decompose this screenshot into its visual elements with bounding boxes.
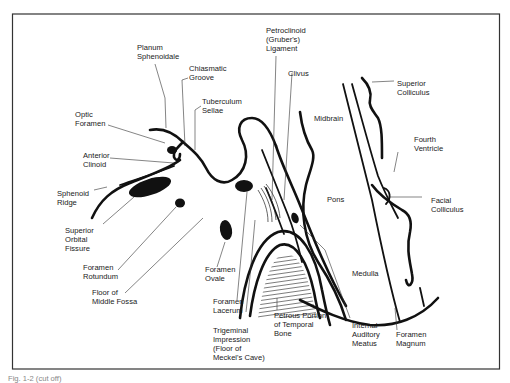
- spinal-cord-line: [420, 288, 424, 306]
- svg-text:Meckel's Cave): Meckel's Cave): [213, 353, 265, 362]
- svg-text:Foramen: Foramen: [75, 119, 105, 128]
- label-superior-orbital-fissure: Superior Orbital Fissure: [65, 226, 94, 253]
- svg-text:Pons: Pons: [327, 195, 345, 204]
- label-midbrain: Midbrain: [314, 114, 343, 123]
- svg-text:Superior: Superior: [397, 79, 426, 88]
- label-superior-colliculus: Superior Colliculus: [397, 79, 430, 97]
- label-medulla: Medulla: [352, 269, 379, 278]
- svg-text:Foramen: Foramen: [83, 263, 113, 272]
- svg-text:Floor of: Floor of: [92, 288, 119, 297]
- svg-text:Foramen: Foramen: [213, 297, 243, 306]
- svg-text:Bone: Bone: [274, 329, 292, 338]
- label-internal-auditory-meatus: Internal Auditory Meatus: [352, 321, 380, 348]
- svg-text:Trigeminal: Trigeminal: [213, 326, 248, 335]
- svg-text:Petrous Portion: Petrous Portion: [274, 311, 326, 320]
- label-clivus: Clivus: [288, 69, 309, 78]
- svg-text:Orbital: Orbital: [65, 235, 88, 244]
- svg-text:Optic: Optic: [75, 110, 93, 119]
- svg-text:Groove: Groove: [189, 73, 214, 82]
- svg-text:Sellae: Sellae: [202, 106, 223, 115]
- svg-text:(Gruber's): (Gruber's): [266, 35, 300, 44]
- label-pons: Pons: [327, 195, 345, 204]
- svg-text:Ridge: Ridge: [57, 198, 77, 207]
- foramen-rotundum-blob: [175, 199, 185, 208]
- svg-text:Anterior: Anterior: [83, 151, 110, 160]
- label-anterior-clinoid: Anterior Clinoid: [83, 151, 110, 169]
- label-foramen-magnum: Foramen Magnum: [396, 330, 426, 348]
- svg-text:Ligament: Ligament: [266, 44, 298, 53]
- svg-text:Superior: Superior: [65, 226, 94, 235]
- svg-text:Sphenoid: Sphenoid: [57, 189, 89, 198]
- svg-text:Tuberculum: Tuberculum: [202, 97, 242, 106]
- svg-text:Sphenoidale: Sphenoidale: [137, 52, 179, 61]
- label-petrous-portion: Petrous Portion of Temporal Bone: [274, 311, 326, 338]
- svg-text:Fissure: Fissure: [65, 244, 90, 253]
- svg-text:Clinoid: Clinoid: [83, 160, 106, 169]
- svg-text:Clivus: Clivus: [288, 69, 309, 78]
- svg-text:Foramen: Foramen: [205, 265, 235, 274]
- skull-base-diagram: Planum Sphenoidale Chiasmatic Groove Tub…: [0, 0, 510, 383]
- svg-text:Magnum: Magnum: [396, 339, 426, 348]
- svg-text:Meatus: Meatus: [352, 339, 377, 348]
- svg-text:of Temporal: of Temporal: [274, 320, 314, 329]
- foramen-ovale-blob: [218, 219, 233, 241]
- svg-text:(Floor of: (Floor of: [213, 344, 242, 353]
- svg-text:Petroclinoid: Petroclinoid: [266, 26, 306, 35]
- label-fourth-ventricle: Fourth Ventricle: [414, 135, 443, 153]
- tectum-outline: [362, 78, 382, 158]
- label-sphenoid-ridge: Sphenoid Ridge: [57, 189, 89, 207]
- svg-text:Impression: Impression: [213, 335, 250, 344]
- label-foramen-rotundum: Foramen Rotundum: [83, 263, 118, 281]
- svg-text:Internal: Internal: [352, 321, 378, 330]
- svg-text:Ovale: Ovale: [205, 274, 225, 283]
- label-optic-foramen: Optic Foramen: [75, 110, 105, 128]
- svg-text:Foramen: Foramen: [396, 330, 426, 339]
- svg-text:Planum: Planum: [137, 43, 163, 52]
- svg-text:Colliculus: Colliculus: [431, 205, 464, 214]
- svg-text:Auditory: Auditory: [352, 330, 380, 339]
- label-floor-middle-fossa: Floor of Middle Fossa: [92, 288, 138, 306]
- label-facial-colliculus: Facial Colliculus: [431, 196, 464, 214]
- svg-text:Medulla: Medulla: [352, 269, 379, 278]
- svg-text:Colliculus: Colliculus: [397, 88, 430, 97]
- label-trigeminal-impression: Trigeminal Impression (Floor of Meckel's…: [213, 326, 265, 362]
- svg-text:Lacerum: Lacerum: [213, 306, 243, 315]
- label-petroclinoid-ligament: Petroclinoid (Gruber's) Ligament: [266, 26, 306, 53]
- label-foramen-ovale: Foramen Ovale: [205, 265, 235, 283]
- label-tuberculum-sellae: Tuberculum Sellae: [202, 97, 242, 115]
- svg-text:Fourth: Fourth: [414, 135, 436, 144]
- svg-text:Ventricle: Ventricle: [414, 144, 443, 153]
- svg-text:Middle Fossa: Middle Fossa: [92, 297, 138, 306]
- figure-caption-partial: Fig. 1-2 (cut off): [8, 374, 62, 383]
- svg-text:Midbrain: Midbrain: [314, 114, 343, 123]
- svg-text:Facial: Facial: [431, 196, 452, 205]
- svg-text:Chiasmatic: Chiasmatic: [189, 64, 227, 73]
- label-chiasmatic-groove: Chiasmatic Groove: [189, 64, 227, 82]
- label-planum-sphenoidale: Planum Sphenoidale: [137, 43, 179, 61]
- foramen-lacerum-blob: [235, 180, 253, 192]
- label-foramen-lacerum: Foramen Lacerum: [213, 297, 243, 315]
- svg-text:Rotundum: Rotundum: [83, 272, 118, 281]
- optic-foramen-blob: [167, 146, 177, 154]
